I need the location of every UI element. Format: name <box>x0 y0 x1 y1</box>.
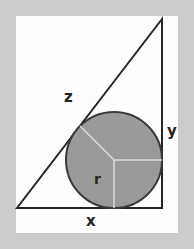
inscribed-circle-figure: z y x r <box>0 0 194 249</box>
geometry-diagram <box>0 0 194 249</box>
label-vertical-leg-y: y <box>167 124 177 139</box>
label-horizontal-leg-x: x <box>86 214 96 229</box>
label-hypotenuse-z: z <box>64 90 73 105</box>
label-radius-r: r <box>94 172 101 186</box>
